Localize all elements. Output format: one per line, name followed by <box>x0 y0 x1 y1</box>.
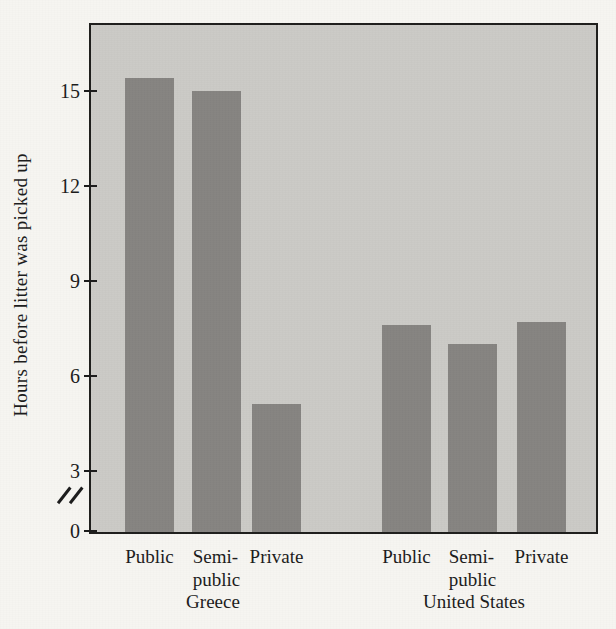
plot-area <box>89 23 598 534</box>
category-label-greece-public: Public <box>125 545 174 568</box>
figure: Hours before litter was picked up 036912… <box>0 0 616 629</box>
y-tick-label-12: 12 <box>32 176 80 196</box>
bar-united-states-public <box>382 325 431 532</box>
y-tick-mark-6 <box>84 375 97 377</box>
category-label-united-states-semi-public: Semi-public <box>449 545 497 591</box>
y-tick-mark-12 <box>84 185 97 187</box>
category-label-united-states-private: Private <box>515 545 569 568</box>
y-axis-label: Hours before litter was picked up <box>10 153 32 417</box>
category-label-line: Public <box>382 545 431 568</box>
category-label-united-states-public: Public <box>382 545 431 568</box>
y-tick-label-9: 9 <box>32 271 80 291</box>
axis-break-slash <box>69 487 83 504</box>
category-label-line: Semi- <box>193 545 241 568</box>
category-label-greece-private: Private <box>250 545 304 568</box>
y-tick-label-3: 3 <box>32 461 80 481</box>
bar-greece-semi-public <box>192 91 241 532</box>
bar-united-states-semi-public <box>448 344 497 532</box>
bar-greece-private <box>252 404 301 532</box>
category-label-line: Private <box>515 545 569 568</box>
bar-united-states-private <box>517 322 566 532</box>
group-label-greece: Greece <box>186 591 240 613</box>
category-label-line: public <box>193 568 241 591</box>
y-tick-label-0: 0 <box>32 521 80 541</box>
group-label-united-states: United States <box>423 591 525 613</box>
y-tick-mark-9 <box>84 280 97 282</box>
bar-greece-public <box>125 78 174 532</box>
category-label-greece-semi-public: Semi-public <box>193 545 241 591</box>
category-label-line: public <box>449 568 497 591</box>
category-label-line: Private <box>250 545 304 568</box>
y-tick-label-6: 6 <box>32 366 80 386</box>
y-tick-label-15: 15 <box>32 81 80 101</box>
category-label-line: Semi- <box>449 545 497 568</box>
y-tick-mark-0 <box>84 530 97 532</box>
category-label-line: Public <box>125 545 174 568</box>
y-tick-mark-3 <box>84 470 97 472</box>
y-tick-mark-15 <box>84 90 97 92</box>
